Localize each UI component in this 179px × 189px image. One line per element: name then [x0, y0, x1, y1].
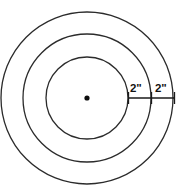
- label-outer-ring-width: 2": [155, 83, 166, 95]
- label-inner-ring-width: 2": [130, 83, 141, 95]
- center-point-dot: [84, 95, 89, 100]
- concentric-circles-diagram: 2" 2": [0, 0, 179, 189]
- diagram-canvas: [0, 0, 179, 189]
